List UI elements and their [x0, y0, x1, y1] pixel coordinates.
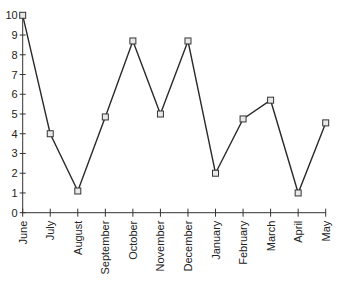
data-point-marker [185, 38, 191, 44]
data-point-marker [130, 38, 136, 44]
data-point-marker [323, 120, 329, 126]
x-tick-label: April [292, 221, 304, 243]
data-point-marker [240, 116, 246, 122]
data-point-marker [102, 114, 108, 120]
x-tick-label: July [44, 220, 56, 240]
x-tick-label: September [99, 220, 111, 274]
data-point-marker [295, 190, 301, 196]
line-chart: 012345678910 JuneJulyAugustSeptemberOcto… [0, 0, 344, 287]
y-tick-label: 10 [5, 9, 17, 21]
axes [23, 13, 326, 212]
y-tick-label: 7 [12, 69, 18, 81]
y-tick-label: 0 [12, 207, 18, 219]
data-point-marker [20, 12, 26, 18]
y-tick-label: 5 [12, 108, 18, 120]
y-tick-label: 8 [12, 49, 18, 61]
x-tick-label: December [182, 220, 194, 271]
x-tick-label: October [127, 220, 139, 259]
data-point-marker [75, 188, 81, 194]
x-axis-ticks: JuneJulyAugustSeptemberOctoberNovemberDe… [17, 209, 332, 275]
data-point-marker [213, 170, 219, 176]
x-tick-label: January [210, 220, 222, 260]
data-point-marker [268, 97, 274, 103]
y-tick-label: 6 [12, 88, 18, 100]
x-tick-label: May [320, 220, 332, 241]
x-tick-label: February [237, 220, 249, 265]
x-tick-label: June [17, 221, 29, 245]
y-tick-label: 1 [12, 187, 18, 199]
x-tick-label: March [265, 221, 277, 252]
x-tick-label: November [154, 220, 166, 271]
data-point-marker [47, 131, 53, 137]
data-point-marker [157, 111, 163, 117]
y-tick-label: 9 [12, 29, 18, 41]
x-tick-label: August [72, 221, 84, 255]
y-tick-label: 3 [12, 147, 18, 159]
y-tick-label: 2 [12, 167, 18, 179]
series-line [23, 15, 326, 193]
y-tick-label: 4 [12, 128, 18, 140]
series-1 [20, 12, 329, 196]
